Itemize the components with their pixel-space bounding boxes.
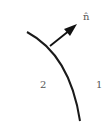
interface-diagram: n̂ 2 1 — [0, 0, 109, 129]
region-1-label: 1 — [96, 79, 102, 90]
normal-vector-arrow — [50, 24, 77, 46]
normal-label: n̂ — [83, 11, 90, 22]
region-2-label: 2 — [40, 79, 46, 90]
boundary-curve — [27, 32, 80, 121]
